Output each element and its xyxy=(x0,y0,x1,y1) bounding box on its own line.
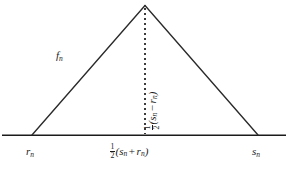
height-fraction-denominator: 2 xyxy=(152,125,161,130)
midpoint-fraction-one-half: 12 xyxy=(110,143,115,160)
midpoint-fraction-denominator: 2 xyxy=(110,151,115,160)
height-first-term-base: s xyxy=(146,117,158,121)
height-label: 12(sn−rn) xyxy=(144,92,161,130)
height-operator: − xyxy=(146,105,158,111)
height-open-paren: ( xyxy=(146,121,158,125)
left-endpoint-subscript: n xyxy=(30,150,34,159)
height-first-term-subscript: n xyxy=(150,113,159,117)
left-slope-line xyxy=(32,6,145,136)
height-fraction-one-half: 12 xyxy=(144,125,161,130)
height-fraction-numerator: 1 xyxy=(144,125,152,130)
triangle-figure: fn rn sn 12(sn+rn) 12(sn−rn) xyxy=(0,0,288,169)
height-second-term-base: r xyxy=(146,99,158,103)
slope-function-subscript: n xyxy=(59,54,63,63)
left-endpoint-label: rn xyxy=(26,146,34,157)
right-slope-line xyxy=(145,6,258,136)
midpoint-first-term-subscript: n xyxy=(123,149,127,158)
height-second-term-subscript: n xyxy=(150,95,159,99)
midpoint-operator: + xyxy=(129,145,135,157)
midpoint-close-paren: ) xyxy=(145,145,149,157)
midpoint-fraction-numerator: 1 xyxy=(110,143,115,151)
midpoint-label: 12(sn+rn) xyxy=(110,143,148,160)
slope-function-label: fn xyxy=(56,50,63,61)
height-close-paren: ) xyxy=(146,92,158,96)
right-endpoint-label: sn xyxy=(252,146,260,157)
right-endpoint-subscript: n xyxy=(256,150,260,159)
